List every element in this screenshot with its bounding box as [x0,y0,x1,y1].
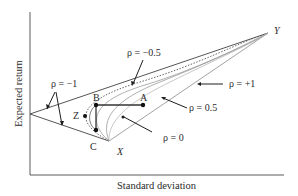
frontier-diagram [0,0,298,196]
label-x: X [117,147,123,157]
label-b: B [93,93,100,103]
label-rho-plus-1: ρ = +1 [229,79,255,89]
label-rho-minus-05: ρ = −0.5 [127,48,161,58]
arrow-rho-05 [163,98,187,108]
label-rho-minus-1: ρ = −1 [51,79,77,89]
y-axis-label: Expected return [13,56,24,132]
arrow-rho-0 [124,117,152,132]
label-z: Z [73,111,79,121]
arrow-dot-icon [122,116,125,119]
x-axis-label: Standard deviation [117,180,196,191]
curve-z-arc [90,105,96,130]
label-rho-05: ρ = 0.5 [189,103,217,113]
curve-rho-minus-1-lower [30,114,109,141]
point-c-upper [94,128,98,132]
label-c: C [90,142,97,152]
curve-rho-minus-1-upper [30,33,268,114]
label-y: Y [274,26,280,36]
label-a: A [140,93,147,103]
arrowhead-icon [197,82,201,86]
arrow-rho-minus-05 [133,60,143,84]
point-z [83,114,87,118]
point-b [94,103,98,107]
point-a [141,103,145,107]
label-rho-0: ρ = 0 [163,133,184,143]
arrow-rho-minus-1-b [56,92,62,125]
